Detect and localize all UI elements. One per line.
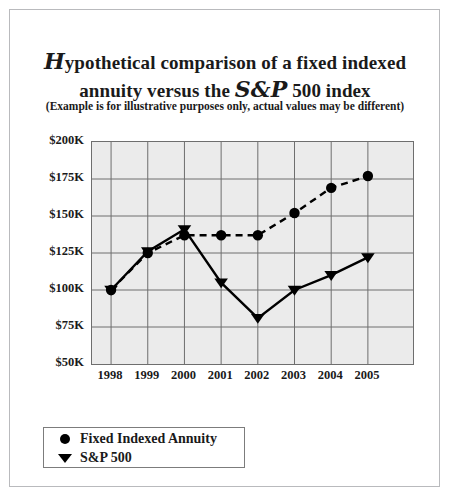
x-axis-labels: 19981999200020012002200320042005 [0,368,450,388]
chart-page: Hypothetical comparison of a fixed index… [0,0,450,493]
data-point-marker [253,230,263,240]
y-axis-tick-label: $175K [28,170,84,185]
x-axis-tick-label: 2005 [342,368,392,383]
circle-marker-icon [54,434,76,444]
title-line-2-post: 500 index [287,80,370,101]
title-line-1-text: ypothetical comparison of a fixed indexe… [65,52,406,73]
y-axis-tick-label: $125K [28,244,84,259]
title-swash-sp: S&P [235,76,288,102]
data-point-marker [361,253,375,263]
data-point-marker [251,314,265,324]
data-point-marker [216,230,226,240]
y-axis-labels: $200K$175K$150K$125K$100K$75K$50K [26,0,84,493]
data-point-marker [363,171,373,181]
legend-label-0: Fixed Indexed Annuity [80,431,217,447]
legend-label-1: S&P 500 [80,450,132,466]
data-series-layer [92,142,413,364]
data-point-marker [326,183,336,193]
y-axis-tick-label: $150K [28,207,84,222]
title-line-2-pre: annuity versus the [79,80,235,101]
triangle-down-marker-icon [54,454,76,463]
y-axis-tick-label: $100K [28,281,84,296]
y-axis-tick-label: $200K [28,133,84,148]
chart-legend: Fixed Indexed Annuity S&P 500 [43,427,245,468]
data-point-marker [289,208,299,218]
plot-area [91,141,414,365]
y-axis-tick-label: $75K [28,318,84,333]
legend-item-fixed-indexed-annuity: Fixed Indexed Annuity [54,429,217,449]
legend-item-sp-500: S&P 500 [54,448,132,468]
